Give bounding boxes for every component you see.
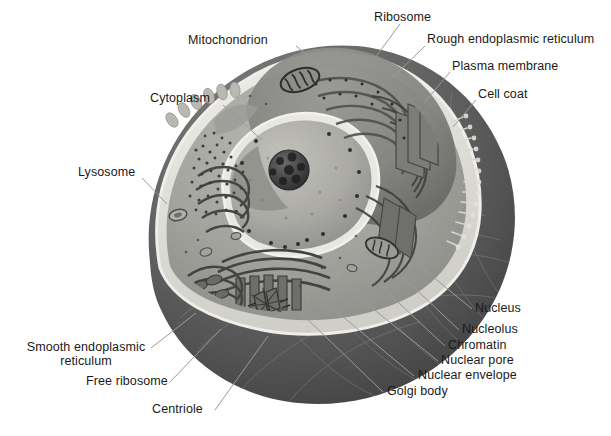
label-plasma-membrane: Plasma membrane [452,60,558,74]
label-free-ribosome: Free ribosome [86,375,168,389]
label-rough-er: Rough endoplasmic reticulum [427,33,594,47]
label-chromatin: Chromatin [448,339,507,353]
label-nucleus: Nucleus [475,302,521,316]
label-smooth-er: Smooth endoplasmic reticulum [22,341,150,368]
label-centriole: Centriole [152,403,203,417]
label-nuclear-envelope: Nuclear envelope [418,369,517,383]
cell-diagram-figure: MitochondrionRibosomeRough endoplasmic r… [0,0,611,436]
label-lysosome: Lysosome [78,166,135,180]
label-mitochondrion: Mitochondrion [188,34,268,48]
label-nucleolus: Nucleolus [462,323,518,337]
label-ribosome: Ribosome [374,11,431,25]
label-cytoplasm: Cytoplasm [150,92,210,106]
nucleolus [269,150,309,190]
label-nuclear-pore: Nuclear pore [441,354,514,368]
label-cell-coat: Cell coat [478,88,528,102]
label-golgi-body: Golgi body [387,385,448,399]
